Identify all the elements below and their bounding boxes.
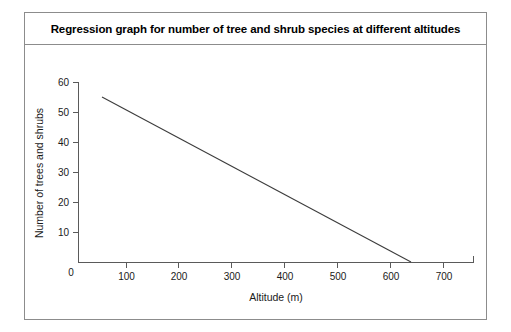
origin-tick-label-0: 0	[68, 267, 74, 278]
figure-frame: Regression graph for number of tree and …	[24, 12, 487, 320]
y-axis-title: Number of trees and shrubs	[33, 108, 45, 238]
x-tick-label-500: 500	[330, 271, 347, 282]
y-tick-label-30: 30	[58, 167, 70, 178]
x-axis-title: Altitude (m)	[249, 291, 303, 303]
regression-chart: 60 50 40 30 20 10 0 100 200 300	[25, 45, 486, 321]
x-tick-label-700: 700	[436, 271, 453, 282]
x-tick-label-200: 200	[171, 271, 188, 282]
y-tick-label-40: 40	[58, 137, 70, 148]
x-tick-label-400: 400	[277, 271, 294, 282]
y-tick-label-50: 50	[58, 107, 70, 118]
regression-line	[102, 97, 411, 262]
x-tick-label-600: 600	[383, 271, 400, 282]
plot-area: 60 50 40 30 20 10 0 100 200 300	[25, 45, 486, 321]
x-tick-label-100: 100	[118, 271, 135, 282]
y-tick-label-10: 10	[58, 227, 70, 238]
page-title: Regression graph for number of tree and …	[51, 23, 461, 35]
y-tick-label-20: 20	[58, 197, 70, 208]
x-tick-label-300: 300	[224, 271, 241, 282]
y-axis-ticks	[73, 83, 79, 233]
y-tick-label-60: 60	[58, 77, 70, 88]
chart-title-box: Regression graph for number of tree and …	[25, 13, 486, 45]
